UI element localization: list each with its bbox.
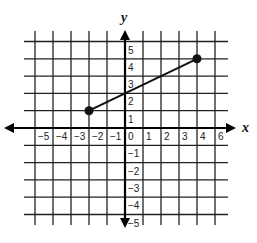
y-tick-label: 4 [128, 62, 134, 73]
y-tick-label: −5 [128, 218, 140, 229]
x-tick-label: −5 [38, 131, 50, 142]
x-tick-label: −2 [92, 131, 104, 142]
x-tick-label: −1 [110, 131, 122, 142]
x-tick-label: −4 [56, 131, 68, 142]
coordinate-plane: −5−4−3−2−101234654321−1−2−3−4−5 x y [0, 0, 257, 243]
y-tick-label: −2 [128, 166, 140, 177]
x-tick-label: 6 [218, 131, 224, 142]
x-tick-label: 0 [128, 131, 134, 142]
y-tick-label: 5 [128, 45, 134, 56]
x-axis-right-arrow-icon [226, 123, 236, 133]
x-axis-label: x [241, 120, 249, 135]
y-axis-label: y [119, 10, 128, 25]
x-tick-label: −3 [74, 131, 86, 142]
y-tick-label: 1 [128, 114, 134, 125]
x-tick-label: 4 [200, 131, 206, 142]
y-tick-label: −1 [128, 148, 140, 159]
tick-labels: −5−4−3−2−101234654321−1−2−3−4−5 [38, 45, 224, 229]
y-axis-up-arrow-icon [120, 30, 130, 40]
y-tick-label: 2 [128, 96, 134, 107]
x-axis-left-arrow-icon [4, 123, 14, 133]
endpoint-dot-icon [193, 54, 202, 63]
x-tick-label: 1 [146, 131, 152, 142]
endpoint-dot-icon [85, 106, 94, 115]
y-tick-label: −4 [128, 200, 140, 211]
y-tick-label: −3 [128, 183, 140, 194]
x-tick-label: 2 [164, 131, 170, 142]
x-tick-label: 3 [182, 131, 188, 142]
